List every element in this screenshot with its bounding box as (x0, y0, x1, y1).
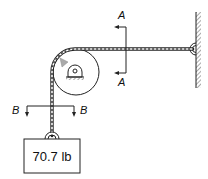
wall (196, 12, 201, 88)
section-label-a-bottom: A (118, 77, 125, 88)
section-label-b-left: B (12, 105, 19, 116)
section-label-a-top: A (118, 10, 125, 21)
section-label-b-right: B (80, 105, 87, 116)
weight-label: 70.7 lb (24, 150, 80, 163)
weight-hook-icon (45, 132, 59, 139)
